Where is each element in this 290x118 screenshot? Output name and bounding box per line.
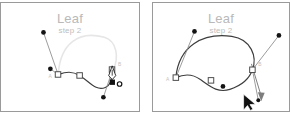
control-point-b-down[interactable]: [256, 98, 260, 102]
anchor-label-b: B: [258, 62, 261, 67]
tutorial-figure: Leaf step 2 A B: [0, 0, 290, 118]
control-point-a-up[interactable]: [192, 29, 197, 34]
control-point-b-down[interactable]: [101, 95, 106, 100]
anchor-point-mid[interactable]: [208, 78, 213, 83]
control-point-a-curve[interactable]: [48, 66, 53, 71]
handle-line-a-up: [176, 31, 195, 77]
anchor-label-a: A: [166, 77, 170, 82]
panel-left: Leaf step 2 A B: [0, 2, 140, 112]
panel-left-canvas: A B: [1, 3, 139, 111]
anchor-point-mid[interactable]: [77, 73, 82, 78]
handle-line-b-up: [252, 35, 279, 69]
anchor-point-a[interactable]: [173, 75, 178, 80]
control-point-a-up[interactable]: [41, 30, 46, 35]
panel-right: Leaf step 2 A: [152, 2, 290, 112]
drawn-path: [58, 71, 112, 89]
anchor-label-a: A: [48, 74, 52, 79]
control-point-b-up[interactable]: [277, 33, 282, 38]
anchor-point-b[interactable]: [250, 67, 255, 72]
preview-closing-curve: [58, 35, 116, 74]
anchor-label-b: B: [118, 62, 121, 67]
close-path-circle-icon: [117, 82, 122, 87]
panel-right-canvas: A B: [153, 3, 289, 111]
mouse-pointer-icon: [244, 94, 256, 110]
arrow-pointer-cursor: [244, 94, 256, 110]
control-point-mid-down[interactable]: [221, 84, 226, 89]
leaf-upper-curve: [176, 36, 254, 78]
anchor-point-a[interactable]: [55, 72, 60, 77]
pen-cursor-base: [110, 80, 115, 85]
